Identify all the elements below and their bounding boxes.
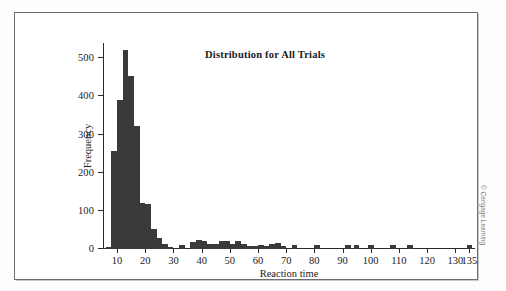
x-axis-tick [145,249,146,253]
y-axis-tick-label: 0 [89,244,94,255]
plot-area: 0100200300400500 10203040506070809010011… [103,43,475,249]
y-axis-tick [98,210,103,211]
x-axis-tick [371,249,372,253]
x-axis-tick-label: 30 [168,256,179,267]
x-axis-tick-label: 60 [253,256,264,267]
x-axis-tick-label: 20 [140,256,151,267]
x-axis-tick-label: 70 [281,256,292,267]
x-axis-tick [314,249,315,253]
x-axis-tick [258,249,259,253]
x-axis-tick-label: 110 [391,256,406,267]
histogram-bar [390,245,396,249]
y-axis-tick [98,172,103,173]
x-axis-tick-label: 100 [363,256,379,267]
x-axis-label: Reaction time [103,268,475,279]
x-axis-tick-label: 50 [225,256,236,267]
y-axis-tick [98,95,103,96]
x-axis-tick [173,249,174,253]
histogram-bar [179,245,185,249]
x-axis-tick [202,249,203,253]
figure-root: Distribution for All Trials Frequency Re… [0,0,506,291]
figure-frame: Distribution for All Trials Frequency Re… [14,12,478,280]
y-axis-tick [98,57,103,58]
x-axis-tick [343,249,344,253]
x-axis-tick [427,249,428,253]
y-axis-tick-label: 100 [78,206,94,217]
x-axis-tick [399,249,400,253]
histogram-bar [354,245,360,249]
y-axis-tick-label: 200 [78,168,94,179]
copyright-credit: © Cengage Learning [480,185,487,245]
x-axis-tick [286,249,287,253]
histogram-bar [292,245,298,249]
x-axis-tick [230,249,231,253]
y-axis-tick-label: 300 [78,130,94,141]
y-axis-tick-label: 500 [78,54,94,65]
x-axis-tick-label: 80 [309,256,320,267]
y-axis-tick [98,134,103,135]
y-axis-tick [98,248,103,249]
x-axis-tick-label: 120 [419,256,435,267]
x-axis-tick-label: 10 [112,256,123,267]
histogram-bar [345,245,351,249]
x-axis-tick-label: 90 [337,256,348,267]
x-axis-tick-label: 40 [196,256,207,267]
x-axis-tick [455,249,456,253]
x-axis-tick [117,249,118,253]
histogram-bar [407,245,413,249]
y-axis-line [103,43,104,249]
x-axis-tick [469,249,470,253]
y-axis-tick-label: 400 [78,92,94,103]
x-axis-tick-label: 135 [461,256,477,267]
